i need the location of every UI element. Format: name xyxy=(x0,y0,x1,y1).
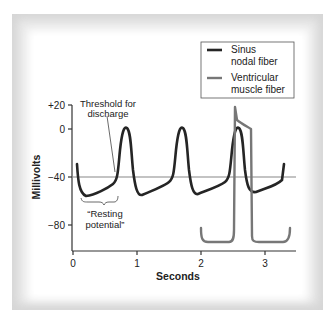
threshold-pointer xyxy=(107,116,115,172)
legend-label-sinus-1: Sinus xyxy=(231,44,256,55)
x-ticks xyxy=(73,251,265,255)
x-tick-label: 3 xyxy=(262,258,268,269)
legend-label-ventricular-2: muscle fiber xyxy=(231,84,286,95)
y-tick-label: 0 xyxy=(59,124,65,135)
resting-label-line1: “Resting xyxy=(87,208,122,219)
legend-label-sinus-2: nodal fiber xyxy=(231,56,278,67)
sinus-nodal-series xyxy=(77,128,284,196)
threshold-label-line2: discharge xyxy=(87,108,128,119)
y-tick-label: +20 xyxy=(48,100,65,111)
y-tick-label: −40 xyxy=(48,172,65,183)
x-tick-label: 0 xyxy=(70,258,76,269)
y-tick-label: −80 xyxy=(48,220,65,231)
legend: Sinus nodal fiber Ventricular muscle fib… xyxy=(201,42,294,98)
x-tick-label: 2 xyxy=(198,258,204,269)
action-potential-chart: +20 0 −40 −80 0 1 2 3 Seconds Millivolts… xyxy=(0,0,333,320)
y-axis-title: Millivolts xyxy=(30,154,42,199)
resting-potential-brace xyxy=(81,196,118,205)
x-tick-label: 1 xyxy=(134,258,140,269)
legend-label-ventricular-1: Ventricular xyxy=(231,72,279,83)
x-tick-labels: 0 1 2 3 xyxy=(70,258,268,269)
y-tick-labels: +20 0 −40 −80 xyxy=(48,100,65,231)
resting-label-line2: potential” xyxy=(85,219,124,230)
x-axis-title: Seconds xyxy=(156,270,200,282)
